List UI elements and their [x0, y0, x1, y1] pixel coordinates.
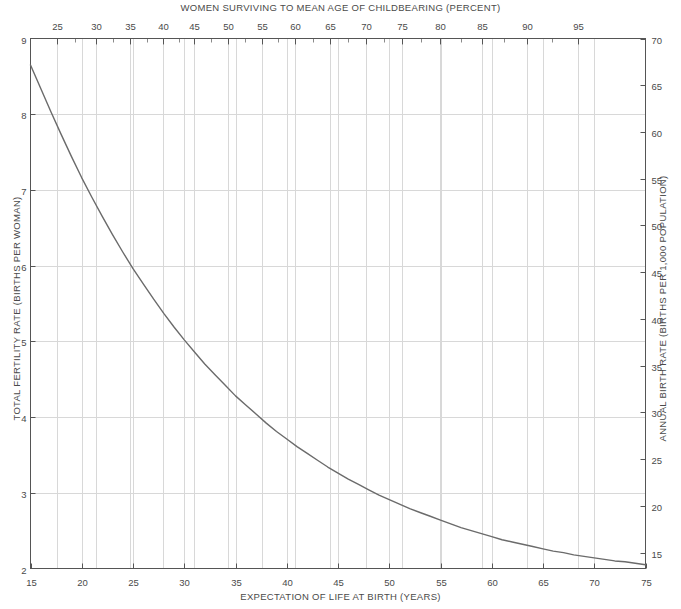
x-tick-label-75: 75 — [641, 577, 652, 588]
x-tick-label-30: 30 — [179, 577, 190, 588]
x2-tick-label-75: 75 — [397, 21, 408, 32]
y2-tick-label-25: 25 — [652, 454, 663, 465]
x-tick-label-70: 70 — [589, 577, 600, 588]
y-tick-label-9: 9 — [9, 34, 27, 45]
plot-area — [0, 0, 681, 609]
y-tick-label-4: 4 — [9, 412, 27, 423]
y-tick-label-7: 7 — [9, 185, 27, 196]
x-tick-label-40: 40 — [282, 577, 293, 588]
chart-root: WOMEN SURVIVING TO MEAN AGE OF CHILDBEAR… — [0, 0, 681, 609]
x-tick-label-35: 35 — [231, 577, 242, 588]
y2-tick-label-15: 15 — [652, 548, 663, 559]
y2-tick-label-30: 30 — [652, 407, 663, 418]
gridlines — [31, 39, 646, 569]
y2-tick-label-20: 20 — [652, 501, 663, 512]
x2-tick-label-35: 35 — [125, 21, 136, 32]
y2-tick-label-35: 35 — [652, 361, 663, 372]
x-tick-label-15: 15 — [26, 577, 37, 588]
y2-tick-label-55: 55 — [652, 174, 663, 185]
x-tick-label-50: 50 — [384, 577, 395, 588]
x2-tick-label-45: 45 — [189, 21, 200, 32]
x2-tick-label-95: 95 — [573, 21, 584, 32]
x2-tick-label-80: 80 — [435, 21, 446, 32]
y2-tick-label-70: 70 — [652, 34, 663, 45]
y2-tick-label-50: 50 — [652, 220, 663, 231]
x-tick-label-60: 60 — [487, 577, 498, 588]
x2-tick-label-40: 40 — [158, 21, 169, 32]
x2-tick-label-85: 85 — [477, 21, 488, 32]
y2-tick-label-60: 60 — [652, 127, 663, 138]
x-tick-label-45: 45 — [333, 577, 344, 588]
x-tick-label-65: 65 — [538, 577, 549, 588]
x-tick-label-25: 25 — [128, 577, 139, 588]
x2-tick-label-50: 50 — [223, 21, 234, 32]
y2-tick-label-40: 40 — [652, 314, 663, 325]
x-tick-label-55: 55 — [436, 577, 447, 588]
x2-tick-label-55: 55 — [257, 21, 268, 32]
x2-tick-label-25: 25 — [52, 21, 63, 32]
x2-tick-label-30: 30 — [91, 21, 102, 32]
x2-tick-label-65: 65 — [325, 21, 336, 32]
x2-tick-label-90: 90 — [522, 21, 533, 32]
y2-tick-label-65: 65 — [652, 80, 663, 91]
y-tick-label-2: 2 — [9, 564, 27, 575]
y-tick-label-6: 6 — [9, 261, 27, 272]
x2-tick-label-70: 70 — [361, 21, 372, 32]
y-tick-label-5: 5 — [9, 336, 27, 347]
x-tick-label-20: 20 — [77, 577, 88, 588]
y2-tick-label-45: 45 — [652, 267, 663, 278]
y-tick-label-3: 3 — [9, 488, 27, 499]
x2-tick-label-60: 60 — [290, 21, 301, 32]
y-tick-label-8: 8 — [9, 109, 27, 120]
